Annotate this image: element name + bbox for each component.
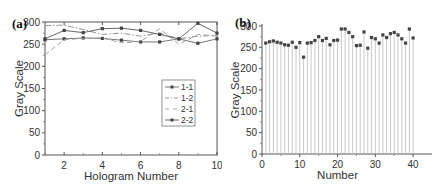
y-tick-label: 0 bbox=[251, 149, 257, 160]
y-tick-label: 200 bbox=[23, 61, 40, 72]
legend-label: 2-2 bbox=[181, 115, 194, 125]
data-point bbox=[294, 46, 297, 49]
data-point bbox=[370, 36, 373, 39]
data-point bbox=[332, 39, 335, 42]
chart-panel-a: (a) 050100150200250300246810Hologram Num… bbox=[0, 0, 222, 186]
series-marker bbox=[120, 39, 123, 42]
series-marker bbox=[43, 37, 46, 40]
legend-label: 1-1 bbox=[181, 82, 194, 92]
y-tick-label: 150 bbox=[23, 83, 40, 94]
data-point bbox=[374, 37, 377, 40]
data-point bbox=[313, 39, 316, 42]
data-point bbox=[359, 44, 362, 47]
series-marker bbox=[82, 31, 85, 34]
data-point bbox=[412, 36, 415, 39]
y-tick-label: 50 bbox=[246, 127, 258, 138]
x-axis-label: Number bbox=[317, 169, 358, 181]
series-marker bbox=[63, 29, 66, 32]
x-axis-label: Hologram Number bbox=[84, 170, 178, 182]
data-point bbox=[344, 27, 347, 30]
data-point bbox=[302, 56, 305, 59]
series-line-1-2 bbox=[45, 25, 217, 39]
x-tick-label: 0 bbox=[259, 159, 265, 170]
chart-panel-b: (b) 050100150200250300010203040NumberGra… bbox=[222, 0, 445, 186]
y-tick-label: 100 bbox=[23, 105, 40, 116]
legend-label: 2-1 bbox=[181, 104, 194, 114]
stem-chart-b: 050100150200250300010203040NumberGray Sc… bbox=[222, 0, 445, 186]
data-point bbox=[393, 31, 396, 34]
data-point bbox=[400, 37, 403, 40]
x-tick-label: 10 bbox=[211, 160, 222, 171]
data-point bbox=[321, 39, 324, 42]
x-tick-label: 2 bbox=[61, 160, 67, 171]
y-tick-label: 250 bbox=[23, 39, 40, 50]
data-point bbox=[396, 33, 399, 36]
data-point bbox=[340, 27, 343, 30]
data-point bbox=[287, 44, 290, 47]
data-point bbox=[336, 38, 339, 41]
data-point bbox=[306, 41, 309, 44]
data-point bbox=[381, 33, 384, 36]
data-point bbox=[298, 41, 301, 44]
series-marker bbox=[101, 27, 104, 30]
data-point bbox=[325, 37, 328, 40]
data-point bbox=[404, 41, 407, 44]
data-point bbox=[362, 30, 365, 33]
y-tick-label: 0 bbox=[34, 150, 40, 161]
x-tick-label: 40 bbox=[408, 159, 420, 170]
data-point bbox=[317, 35, 320, 38]
x-tick-label: 30 bbox=[370, 159, 382, 170]
series-marker bbox=[158, 40, 161, 43]
series-marker bbox=[196, 22, 199, 25]
data-point bbox=[347, 31, 350, 34]
y-tick-label: 100 bbox=[240, 106, 257, 117]
data-point bbox=[310, 41, 313, 44]
series-marker bbox=[196, 42, 199, 45]
series-line-2-2 bbox=[45, 23, 217, 39]
y-tick-label: 250 bbox=[240, 42, 257, 53]
data-point bbox=[366, 47, 369, 50]
data-point bbox=[291, 41, 294, 44]
series-marker bbox=[215, 31, 218, 34]
data-point bbox=[378, 41, 381, 44]
data-point bbox=[351, 35, 354, 38]
legend-label: 1-2 bbox=[181, 93, 194, 103]
data-point bbox=[272, 39, 275, 42]
x-tick-label: 10 bbox=[294, 159, 306, 170]
data-point bbox=[355, 44, 358, 47]
data-point bbox=[385, 36, 388, 39]
y-tick-label: 50 bbox=[29, 127, 41, 138]
data-point bbox=[328, 43, 331, 46]
series-marker bbox=[158, 33, 161, 36]
panel-label-a: (a) bbox=[12, 16, 27, 32]
panel-label-b: (b) bbox=[235, 15, 251, 31]
line-chart-a: 050100150200250300246810Hologram NumberG… bbox=[0, 0, 222, 186]
series-marker bbox=[101, 37, 104, 40]
y-axis-label: Gray Scale bbox=[13, 60, 25, 117]
data-point bbox=[264, 41, 267, 44]
data-point bbox=[283, 43, 286, 46]
y-axis-label: Gray Scale bbox=[229, 62, 241, 119]
data-point bbox=[279, 41, 282, 44]
series-marker bbox=[177, 37, 180, 40]
data-point bbox=[389, 32, 392, 35]
data-point bbox=[408, 27, 411, 30]
data-point bbox=[268, 40, 271, 43]
data-point bbox=[276, 41, 279, 44]
y-tick-label: 150 bbox=[240, 85, 257, 96]
series-marker bbox=[120, 27, 123, 30]
series-marker bbox=[215, 37, 218, 40]
y-tick-label: 200 bbox=[240, 63, 257, 74]
series-marker bbox=[139, 29, 142, 32]
